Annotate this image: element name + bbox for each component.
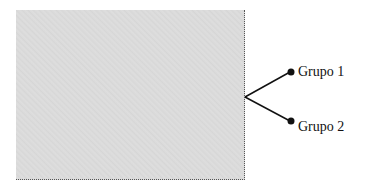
label-grupo-1: Grupo 1 xyxy=(298,65,344,79)
label-grupo-2: Grupo 2 xyxy=(298,120,344,134)
branch-connector xyxy=(0,0,368,191)
node-dot-grupo-2 xyxy=(288,118,295,125)
branch-line-grupo-2 xyxy=(245,97,290,121)
node-dot-grupo-1 xyxy=(288,69,295,76)
branch-line-grupo-1 xyxy=(245,72,290,97)
